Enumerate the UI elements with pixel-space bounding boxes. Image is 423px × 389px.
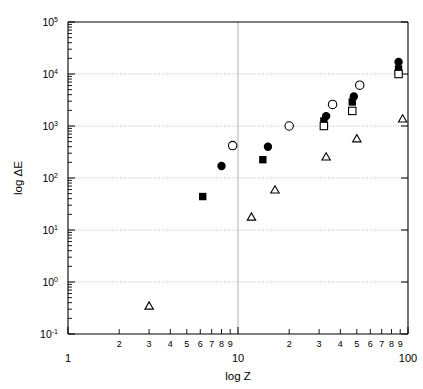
- x-tick-label-minor: 6: [198, 339, 203, 349]
- y-tick-label: 104: [42, 68, 58, 80]
- x-tick-label-minor: 3: [317, 339, 322, 349]
- data-point-open-square: [349, 107, 356, 114]
- data-point-filled-circle: [394, 58, 402, 66]
- x-tick-label-minor: 7: [379, 339, 384, 349]
- data-point-filled-circle: [264, 142, 272, 150]
- scatter-plot-canvas: 10-1100101102103104105234567892345678911…: [0, 0, 423, 389]
- data-point-open-circle: [356, 81, 364, 89]
- y-tick-label: 100: [42, 276, 58, 288]
- data-point-open-triangle: [322, 153, 330, 160]
- x-tick-label-minor: 2: [117, 339, 122, 349]
- x-tick-label-minor: 3: [147, 339, 152, 349]
- chart-figure: 10-1100101102103104105234567892345678911…: [0, 0, 423, 389]
- data-point-open-triangle: [247, 213, 255, 220]
- x-tick-label-minor: 9: [398, 339, 403, 349]
- y-axis-title: log ΔE: [12, 161, 24, 195]
- data-point-open-square: [320, 122, 327, 129]
- y-tick-label: 103: [42, 120, 58, 132]
- data-point-filled-square: [349, 98, 356, 105]
- x-tick-label-minor: 5: [354, 339, 359, 349]
- y-tick-label: 102: [42, 172, 58, 184]
- data-point-open-circle: [228, 141, 236, 149]
- x-tick-label-minor: 2: [287, 339, 292, 349]
- data-point-open-triangle: [271, 186, 279, 193]
- x-tick-label-minor: 4: [338, 339, 343, 349]
- y-tick-label: 101: [42, 224, 58, 236]
- data-point-filled-square: [199, 193, 206, 200]
- data-point-filled-square: [259, 156, 266, 163]
- x-tick-label-minor: 8: [219, 339, 224, 349]
- data-point-open-square: [395, 70, 402, 77]
- x-tick-label-minor: 8: [389, 339, 394, 349]
- x-axis-title: log Z: [225, 370, 251, 382]
- x-tick-label-minor: 7: [209, 339, 214, 349]
- data-point-open-triangle: [398, 115, 406, 122]
- data-point-open-triangle: [353, 135, 361, 142]
- x-tick-label-major: 1: [65, 352, 71, 364]
- x-tick-label-minor: 6: [368, 339, 373, 349]
- x-tick-label-major: 10: [232, 352, 244, 364]
- data-point-open-circle: [285, 122, 293, 130]
- y-tick-label: 105: [42, 16, 58, 28]
- x-tick-label-minor: 5: [184, 339, 189, 349]
- y-tick-label: 10-1: [40, 328, 58, 340]
- x-tick-label-major: 100: [399, 352, 417, 364]
- x-tick-label-minor: 9: [228, 339, 233, 349]
- data-point-open-circle: [328, 100, 336, 108]
- data-point-filled-circle: [217, 162, 225, 170]
- data-point-open-triangle: [145, 302, 153, 309]
- x-tick-label-minor: 4: [168, 339, 173, 349]
